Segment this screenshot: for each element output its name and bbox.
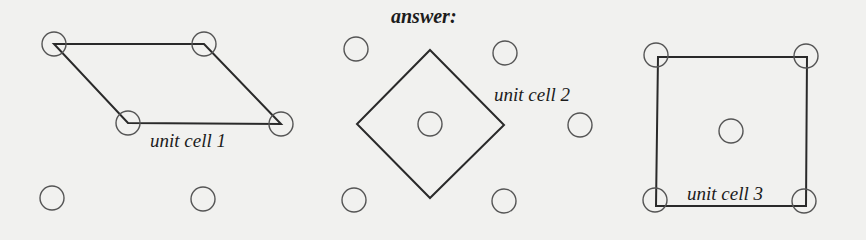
lattice-point-icon: [643, 188, 667, 212]
lattice-drawing: [0, 0, 866, 240]
lattice-point-icon: [342, 188, 366, 212]
lattice-point-icon: [644, 43, 668, 67]
lattice-point-icon: [40, 186, 64, 210]
unit-cell-3-label: unit cell 3: [687, 184, 763, 203]
lattice-point-icon: [792, 189, 816, 213]
lattice-point-icon: [191, 187, 215, 211]
unit-cell-2-label: unit cell 2: [494, 85, 570, 104]
lattice-point-icon: [719, 119, 743, 143]
answer-title: answer:: [391, 6, 457, 26]
unit-cell-1-label: unit cell 1: [150, 131, 226, 150]
lattice-diagram: answer: unit cell 1 unit cell 2 unit cel…: [0, 0, 866, 240]
lattice-point-icon: [492, 189, 516, 213]
lattice-point-icon: [344, 37, 368, 61]
unit-cell-2-outline: [357, 50, 504, 198]
unit-cell-1-outline: [54, 44, 281, 124]
lattice-point-icon: [568, 113, 592, 137]
lattice-point-icon: [493, 41, 517, 65]
lattice-point-icon: [418, 112, 442, 136]
